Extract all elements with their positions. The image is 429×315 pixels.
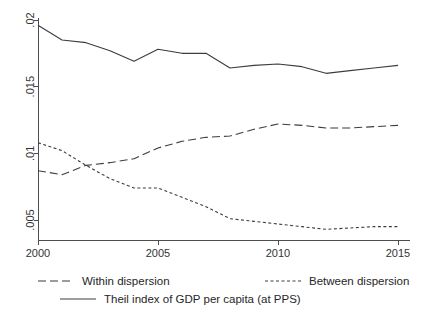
x-tick-label: 2000 [26,247,50,259]
legend-label: Within dispersion [82,275,170,287]
data-series-group [38,25,398,229]
y-tick-label: .015 [24,76,36,97]
y-tick-label: .005 [24,209,36,230]
x-tick-label: 2010 [266,247,290,259]
series-line-between-dispersion [38,143,398,230]
legend-label: Theil index of GDP per capita (at PPS) [104,293,301,305]
series-line-within-dispersion [38,124,398,175]
x-tick-label: 2015 [386,247,410,259]
y-tick-label: .02 [24,12,36,27]
series-line-theil-index-of-gdp-per-capita-at-pps [38,25,398,73]
y-tick-label: .01 [24,146,36,161]
x-tick-label: 2005 [146,247,170,259]
x-axis-ticks: 2000200520102015 [26,240,410,259]
line-chart-canvas: .005.01.015.02 2000200520102015 Within d… [0,0,429,315]
chart-figure: .005.01.015.02 2000200520102015 Within d… [0,0,429,315]
plot-axes [38,18,410,240]
chart-legend: Within dispersionBetween dispersionTheil… [38,275,409,305]
legend-label: Between dispersion [309,275,409,287]
y-axis-ticks: .005.01.015.02 [24,12,38,230]
